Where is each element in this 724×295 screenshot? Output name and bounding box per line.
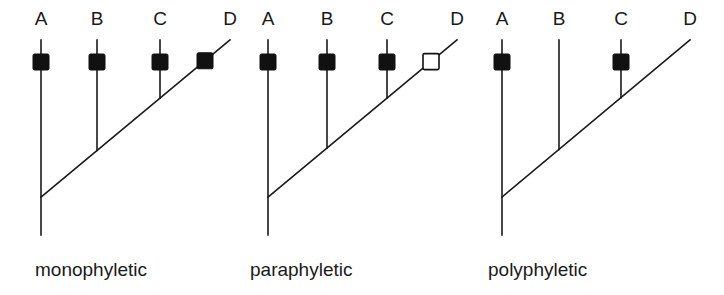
cladogram-canvas: ABCDmonophyleticABCDparaphyleticABCDpoly… <box>0 0 724 295</box>
filled-trait-marker-C <box>152 54 168 70</box>
caption-monophyletic: monophyletic <box>35 259 147 280</box>
cladogram-monophyletic: ABCDmonophyletic <box>33 8 237 280</box>
filled-trait-marker-A <box>260 54 276 70</box>
taxon-label-B: B <box>91 8 104 29</box>
taxon-label-A: A <box>262 8 275 29</box>
caption-paraphyletic: paraphyletic <box>250 259 352 280</box>
taxon-label-A: A <box>496 8 509 29</box>
caption-polyphyletic: polyphyletic <box>488 259 587 280</box>
cladogram-paraphyletic: ABCDparaphyletic <box>250 8 464 280</box>
taxon-label-D: D <box>450 8 464 29</box>
filled-trait-marker-A <box>494 54 510 70</box>
filled-trait-marker-A <box>33 54 49 70</box>
taxon-label-D: D <box>223 8 237 29</box>
taxon-label-D: D <box>683 8 697 29</box>
taxon-label-C: C <box>614 8 628 29</box>
taxon-label-C: C <box>380 8 394 29</box>
taxon-label-B: B <box>553 8 566 29</box>
taxon-label-C: C <box>153 8 167 29</box>
filled-trait-marker-B <box>89 54 105 70</box>
filled-trait-marker-C <box>379 54 395 70</box>
cladogram-polyphyletic: ABCDpolyphyletic <box>488 8 697 280</box>
hollow-trait-marker-D <box>423 54 439 70</box>
taxon-label-A: A <box>35 8 48 29</box>
filled-trait-marker-C <box>613 54 629 70</box>
branch-D-diagonal <box>502 40 690 197</box>
taxon-label-B: B <box>321 8 334 29</box>
filled-trait-marker-D <box>197 53 213 69</box>
filled-trait-marker-B <box>319 54 335 70</box>
